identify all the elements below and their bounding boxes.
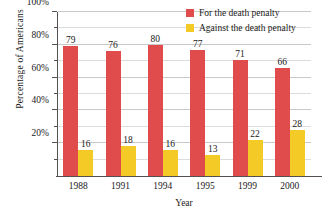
bar-against-1994: 16 — [163, 150, 178, 176]
bar-for-1994: 80 — [148, 45, 163, 176]
gridline-major — [58, 44, 311, 45]
bar-value-label: 71 — [235, 49, 245, 59]
legend-item: For the death penalty — [186, 6, 332, 20]
bar-against-1988: 16 — [78, 150, 93, 176]
chart-legend: For the death penaltyAgainst the death p… — [186, 6, 332, 36]
legend-label: For the death penalty — [199, 6, 279, 20]
y-axis-tick-minor — [54, 159, 57, 160]
bar-against-2000: 28 — [290, 130, 305, 176]
bar-group: 7618 — [106, 12, 136, 176]
y-axis-line — [57, 12, 58, 176]
bar-value-label: 76 — [108, 40, 118, 50]
legend-swatch-icon — [186, 24, 194, 32]
gridline-minor — [58, 93, 311, 94]
y-axis-tick-label: 40% — [32, 95, 49, 105]
y-axis-tick-major — [52, 11, 57, 12]
y-axis-tick-minor — [54, 93, 57, 94]
y-axis-title: Percentage of Americans — [13, 0, 27, 139]
y-axis-tick-minor — [54, 126, 57, 127]
x-axis-tick-label: 2000 — [280, 181, 299, 191]
bar-for-2000: 66 — [275, 68, 290, 176]
bar-value-label: 22 — [250, 129, 260, 139]
bar-chart: Percentage of Americans 100%80%60%40%20%… — [0, 0, 332, 216]
gridline-minor — [58, 60, 311, 61]
y-axis-tick-major — [52, 77, 57, 78]
gridline-major — [58, 109, 311, 110]
y-axis-tick-label: 80% — [32, 30, 49, 40]
bar-value-label: 77 — [193, 39, 203, 49]
bar-for-1999: 71 — [233, 60, 248, 176]
bar-group: 6628 — [275, 12, 305, 176]
bar-value-label: 13 — [208, 144, 218, 154]
x-axis-tick-label: 1999 — [238, 181, 257, 191]
y-axis-tick-major — [52, 109, 57, 110]
legend-item: Against the death penalty — [186, 21, 332, 35]
plot-area: 100%80%60%40%20% 79167618801677137122662… — [57, 12, 311, 176]
plot-background — [57, 12, 311, 176]
bar-group: 7916 — [63, 12, 93, 176]
bar-value-label: 80 — [151, 34, 161, 44]
x-axis-tick-label: 1991 — [111, 181, 130, 191]
bar-group: 7122 — [233, 12, 263, 176]
bar-against-1995: 13 — [205, 155, 220, 176]
bar-value-label: 18 — [123, 135, 133, 145]
bar-for-1995: 77 — [190, 50, 205, 176]
gridline-major — [58, 142, 311, 143]
y-axis-tick-minor — [54, 60, 57, 61]
bar-value-label: 66 — [278, 57, 288, 67]
x-axis-tick-label: 1994 — [153, 181, 172, 191]
bar-for-1988: 79 — [63, 46, 78, 176]
y-axis-tick-label: 60% — [32, 63, 49, 73]
x-axis-tick-label: 1988 — [69, 181, 88, 191]
y-axis-tick-minor — [54, 27, 57, 28]
bar-group: 7713 — [190, 12, 220, 176]
y-axis-tick-major — [52, 44, 57, 45]
legend-swatch-icon — [186, 9, 194, 17]
legend-label: Against the death penalty — [199, 21, 296, 35]
y-axis-tick-label: 20% — [32, 128, 49, 138]
bar-group: 8016 — [148, 12, 178, 176]
x-axis-tick-label: 1995 — [196, 181, 215, 191]
bar-against-1991: 18 — [121, 146, 136, 176]
y-axis-tick-label: 100% — [27, 0, 49, 7]
bar-value-label: 28 — [293, 119, 303, 129]
bar-against-1999: 22 — [248, 140, 263, 176]
gridline-minor — [58, 126, 311, 127]
bar-value-label: 16 — [166, 139, 176, 149]
bar-value-label: 79 — [66, 35, 76, 45]
bar-for-1991: 76 — [106, 51, 121, 176]
x-axis-title: Year — [57, 198, 311, 208]
y-axis-tick-major — [52, 142, 57, 143]
gridline-minor — [58, 159, 311, 160]
bar-value-label: 16 — [81, 139, 91, 149]
gridline-major — [58, 77, 311, 78]
